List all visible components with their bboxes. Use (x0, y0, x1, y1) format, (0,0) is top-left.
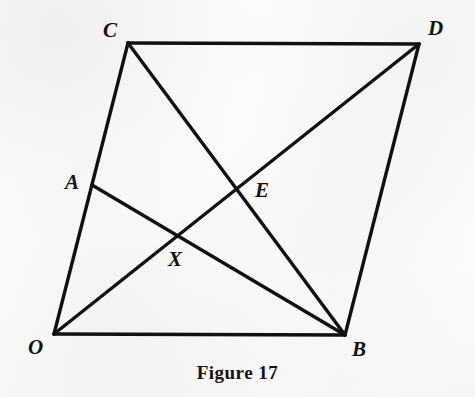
segment-layer (54, 43, 419, 335)
vertex-dot-D (417, 42, 420, 45)
vertex-dot-O (52, 332, 55, 335)
point-label-C: C (103, 20, 117, 41)
point-label-B: B (352, 339, 366, 360)
point-label-A: A (65, 172, 79, 193)
segment-B-D (345, 44, 419, 335)
figure-container: O B C D A E X Figure 17 (0, 0, 475, 397)
figure-caption: Figure 17 (0, 362, 475, 384)
segment-C-D (128, 43, 419, 44)
point-label-D: D (428, 18, 443, 39)
geometry-diagram (0, 0, 475, 397)
point-label-X: X (168, 249, 182, 270)
segment-O-D (54, 44, 419, 334)
vertex-dot-B (343, 333, 346, 336)
point-label-E: E (255, 180, 269, 201)
point-label-O: O (28, 337, 43, 358)
vertex-dot-A (90, 183, 93, 186)
vertex-dot-C (126, 41, 129, 44)
segment-O-B (54, 334, 345, 335)
segment-A-B (92, 185, 345, 335)
